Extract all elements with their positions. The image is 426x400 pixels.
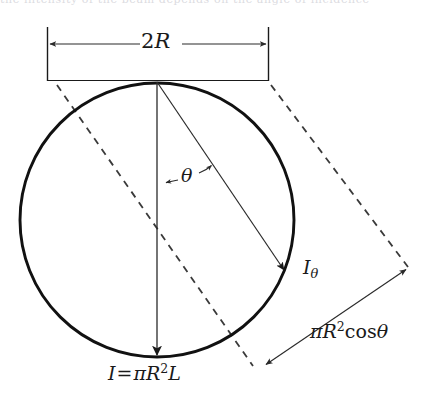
label-angled-intensity: Iθ [303,258,318,281]
label-angle: θ [181,166,192,185]
label-diameter: 2R [141,31,170,52]
total-intensity-length: L [168,362,181,384]
dashed-line-left [57,85,253,366]
projected-area-exponent: 2 [337,319,345,334]
figure-root: the intensity of the beam depends on the… [0,0,426,400]
diameter-symbol: R [154,29,170,53]
projected-area-cos: cos [345,320,377,342]
theta-arrow-left-leg [166,180,178,183]
diameter-number: 2 [141,29,154,53]
total-intensity-pi: π [133,362,146,384]
label-projected-area: πR2cosθ [310,321,388,341]
angled-intensity-subscript: θ [311,266,319,281]
projected-area-pi: π [310,320,323,342]
angled-intensity-arrow [157,82,284,270]
label-total-intensity: I=πR2L [108,363,181,383]
projected-area-double-arrow [266,270,406,365]
total-intensity-symbol: I [108,362,116,384]
projected-area-radius: R [323,320,337,342]
projected-area-angle: θ [377,320,388,342]
projected-area-arrow [266,270,406,365]
total-intensity-radius: R [146,362,160,384]
angled-intensity-symbol: I [303,256,311,278]
total-intensity-equals: = [117,362,133,384]
angle-symbol: θ [181,164,192,186]
theta-arrow-right-leg [199,166,212,174]
